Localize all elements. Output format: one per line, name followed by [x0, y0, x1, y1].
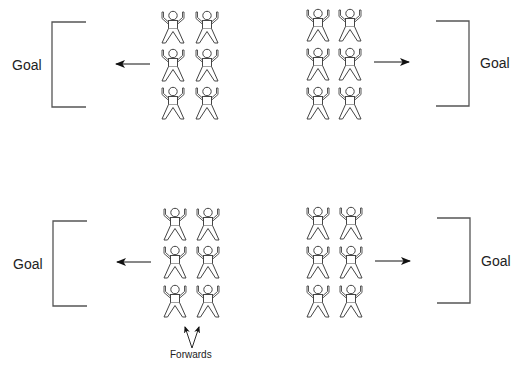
forwards-pointer-right-icon — [192, 327, 199, 348]
forwards-pointer-left-icon — [185, 327, 192, 348]
person-arms-raised-icon — [197, 246, 219, 278]
team-bottom-left — [164, 208, 219, 317]
goal-label-bottom-left: Goal — [13, 257, 43, 271]
person-arms-raised-icon — [340, 285, 362, 317]
diagram-canvas — [0, 0, 520, 368]
goal-bracket-top-right — [436, 21, 469, 106]
goal-label-top-right: Goal — [480, 56, 510, 70]
person-arms-raised-icon — [307, 207, 329, 239]
team-top-left — [162, 11, 218, 119]
person-arms-raised-icon — [196, 11, 218, 43]
person-arms-raised-icon — [196, 49, 218, 81]
person-arms-raised-icon — [307, 9, 329, 41]
person-arms-raised-icon — [197, 208, 219, 240]
team-bottom-right — [307, 207, 362, 317]
goal-bracket-bottom-right — [437, 218, 470, 303]
goal-bracket-bottom-left — [53, 221, 87, 306]
person-arms-raised-icon — [339, 87, 361, 119]
goal-bracket-top-left — [52, 22, 86, 107]
person-arms-raised-icon — [339, 48, 361, 80]
person-arms-raised-icon — [197, 285, 219, 317]
person-arms-raised-icon — [162, 11, 184, 43]
person-arms-raised-icon — [307, 87, 329, 119]
team-top-right — [307, 9, 361, 119]
person-arms-raised-icon — [196, 87, 218, 119]
goal-label-top-left: Goal — [12, 58, 42, 72]
person-arms-raised-icon — [339, 9, 361, 41]
person-arms-raised-icon — [164, 285, 186, 317]
person-arms-raised-icon — [340, 207, 362, 239]
person-arms-raised-icon — [340, 246, 362, 278]
person-arms-raised-icon — [162, 87, 184, 119]
person-arms-raised-icon — [164, 208, 186, 240]
football-formation-diagram: Goal Goal Goal Goal Forwards — [0, 0, 520, 368]
person-arms-raised-icon — [307, 48, 329, 80]
forwards-label: Forwards — [170, 350, 212, 360]
person-arms-raised-icon — [164, 246, 186, 278]
person-arms-raised-icon — [162, 49, 184, 81]
person-arms-raised-icon — [307, 285, 329, 317]
goal-label-bottom-right: Goal — [481, 254, 511, 268]
person-arms-raised-icon — [307, 246, 329, 278]
